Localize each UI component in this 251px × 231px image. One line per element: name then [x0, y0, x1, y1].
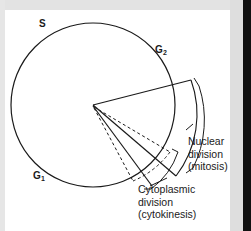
callout-cytoplasmic-line-3: (cytokinesis) [138, 208, 196, 221]
phase-label-g2: G2 [155, 44, 167, 55]
phase-label-g2-subscript: 2 [163, 49, 167, 56]
cytokinesis-boundary-ray [93, 106, 152, 186]
page-frame-left-band [0, 0, 5, 231]
callout-nuclear-line-1: Nuclear [188, 135, 228, 148]
phase-label-s: S [39, 18, 46, 29]
callout-cytoplasmic-division: Cytoplasmic division (cytokinesis) [138, 183, 196, 221]
phase-label-s-text: S [39, 18, 46, 29]
nuclear-division-leader [186, 124, 193, 130]
phase-label-g1: G1 [33, 170, 45, 181]
callout-cytoplasmic-line-2: division [138, 196, 196, 209]
page-frame-right-band [230, 0, 243, 231]
cell-cycle-figure: S G2 G1 Nuclear division (mitosis) Cytop… [0, 0, 251, 231]
wedge-lower-ray [93, 105, 176, 176]
phase-label-g2-text: G [155, 44, 163, 55]
page-frame-right-edge [243, 0, 251, 231]
callout-nuclear-division: Nuclear division (mitosis) [188, 135, 228, 173]
cell-cycle-diagram-svg [0, 0, 251, 231]
wedge-upper-ray [93, 80, 191, 105]
callout-cytoplasmic-line-1: Cytoplasmic [138, 183, 196, 196]
phase-label-g1-text: G [33, 170, 41, 181]
callout-nuclear-line-2: division [188, 148, 228, 161]
phase-label-g1-subscript: 1 [41, 175, 45, 182]
page-frame-top-band [0, 0, 251, 10]
callout-nuclear-line-3: (mitosis) [188, 160, 228, 173]
